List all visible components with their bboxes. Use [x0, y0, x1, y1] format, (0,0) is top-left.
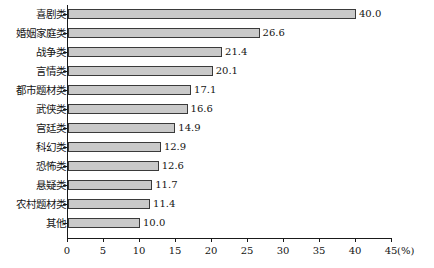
bar-value-label: 17.1 [194, 83, 216, 97]
y-axis-tick [63, 185, 67, 186]
bar [68, 180, 152, 190]
x-axis-tick [103, 238, 104, 242]
y-axis-tick [63, 147, 67, 148]
bar [68, 47, 222, 57]
x-axis-tick [247, 238, 248, 242]
y-axis-tick [63, 52, 67, 53]
bar-row: 农村题材类11.4 [0, 195, 434, 214]
y-axis-tick [63, 204, 67, 205]
bar-value-label: 14.9 [178, 121, 200, 135]
x-axis-tick-label: 15 [169, 244, 182, 257]
bar [68, 123, 175, 133]
y-axis-tick [63, 90, 67, 91]
x-axis-tick-label: 45 [385, 244, 398, 257]
bar-value-label: 12.6 [162, 159, 184, 173]
category-label: 农村题材类 [0, 195, 66, 214]
x-axis-tick [391, 238, 392, 242]
bar-value-label: 26.6 [263, 26, 285, 40]
x-axis-tick [139, 238, 140, 242]
x-axis-tick-label: 35 [313, 244, 326, 257]
bar [68, 142, 161, 152]
bar [68, 9, 356, 19]
bar-row: 悬疑类11.7 [0, 176, 434, 195]
bar-row: 都市题材类17.1 [0, 81, 434, 100]
category-label: 恐怖类 [0, 157, 66, 176]
bar-value-label: 11.4 [153, 197, 175, 211]
y-axis-tick [63, 14, 67, 15]
bar-row: 言情类20.1 [0, 62, 434, 81]
x-axis-tick [211, 238, 212, 242]
bar-value-label: 16.6 [191, 102, 213, 116]
bar-value-label: 11.7 [155, 178, 177, 192]
x-axis-tick-label: 0 [64, 244, 70, 257]
x-axis-tick [67, 238, 68, 242]
bar-row: 武侠类16.6 [0, 100, 434, 119]
bar-chart: 喜剧类40.0婚姻家庭类26.6战争类21.4言情类20.1都市题材类17.1武… [0, 0, 434, 268]
bar-row: 其他10.0 [0, 214, 434, 233]
x-axis-line [67, 238, 392, 239]
x-axis-tick [283, 238, 284, 242]
bar [68, 218, 140, 228]
x-axis-tick-label: 25 [241, 244, 254, 257]
bar [68, 161, 159, 171]
bar-value-label: 10.0 [143, 216, 165, 230]
bar-row: 战争类21.4 [0, 43, 434, 62]
y-axis-tick [63, 109, 67, 110]
x-axis-tick [175, 238, 176, 242]
bar-value-label: 20.1 [216, 64, 238, 78]
bar [68, 199, 150, 209]
plot-area: 喜剧类40.0婚姻家庭类26.6战争类21.4言情类20.1都市题材类17.1武… [0, 0, 434, 268]
bar [68, 85, 191, 95]
y-axis-tick [63, 128, 67, 129]
category-label: 言情类 [0, 62, 66, 81]
bar [68, 28, 260, 38]
x-axis-unit-label: (%) [397, 244, 414, 257]
category-label: 科幻类 [0, 138, 66, 157]
x-axis-tick [319, 238, 320, 242]
bar [68, 104, 188, 114]
x-axis-tick-label: 5 [100, 244, 106, 257]
x-axis-tick [355, 238, 356, 242]
category-label: 宫廷类 [0, 119, 66, 138]
bar-value-label: 12.9 [164, 140, 186, 154]
x-axis-tick-label: 40 [349, 244, 362, 257]
y-axis-tick [63, 223, 67, 224]
category-label: 悬疑类 [0, 176, 66, 195]
category-label: 武侠类 [0, 100, 66, 119]
y-axis-tick [63, 33, 67, 34]
y-axis-tick [63, 71, 67, 72]
category-label: 其他 [0, 214, 66, 233]
category-label: 战争类 [0, 43, 66, 62]
y-axis-tick [63, 166, 67, 167]
bar [68, 66, 213, 76]
category-label: 喜剧类 [0, 5, 66, 24]
x-axis-tick-label: 10 [133, 244, 146, 257]
x-axis-tick-label: 30 [277, 244, 290, 257]
bar-row: 科幻类12.9 [0, 138, 434, 157]
bar-row: 喜剧类40.0 [0, 5, 434, 24]
bar-value-label: 40.0 [359, 7, 381, 21]
bar-row: 宫廷类14.9 [0, 119, 434, 138]
bar-value-label: 21.4 [225, 45, 247, 59]
x-axis-tick-label: 20 [205, 244, 218, 257]
bar-row: 恐怖类12.6 [0, 157, 434, 176]
category-label: 婚姻家庭类 [0, 24, 66, 43]
bar-row: 婚姻家庭类26.6 [0, 24, 434, 43]
category-label: 都市题材类 [0, 81, 66, 100]
